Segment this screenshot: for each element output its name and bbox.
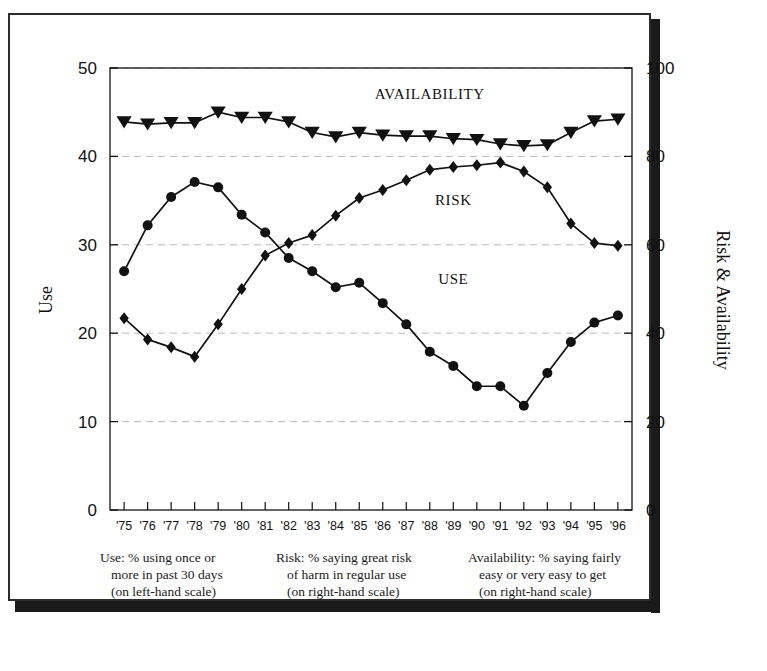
x-axis-tick-label: '90 (469, 519, 485, 533)
right-axis-tick-label: 20 (646, 413, 665, 432)
risk-label: RISK (435, 192, 472, 208)
data-point-marker (613, 240, 622, 252)
availability-caption-line: Availability: % saying fairly (468, 549, 621, 566)
data-point-marker (354, 278, 364, 288)
data-point-marker (166, 192, 176, 202)
data-point-marker (307, 266, 317, 276)
page-canvas: 01020304050 020406080100 '75'76'77'78'79… (0, 0, 767, 671)
left-axis-tick-label: 40 (78, 147, 97, 166)
right-axis-title: Risk & Availability (713, 230, 733, 370)
series-line (124, 163, 618, 357)
availability-label: AVAILABILITY (375, 86, 485, 102)
left-axis-tick-label: 50 (78, 59, 97, 78)
data-point-marker (495, 381, 505, 391)
x-axis-tick-label: '87 (398, 519, 414, 533)
data-point-marker (425, 347, 435, 357)
right-axis-tick-label: 40 (646, 324, 665, 343)
left-axis-tick-label: 0 (88, 501, 97, 520)
x-axis-tick-label: '78 (187, 519, 203, 533)
use-label: USE (438, 271, 468, 287)
x-axis-tick-label: '76 (139, 519, 155, 533)
data-point-marker (401, 319, 411, 329)
risk-caption-line: (on right-hand scale) (276, 583, 412, 600)
data-point-marker (331, 282, 341, 292)
x-axis-tick-label: '92 (516, 519, 532, 533)
data-point-marker (119, 312, 128, 324)
data-point-marker (378, 298, 388, 308)
x-axis: '75'76'77'78'79'80'81'82'83'84'85'86'87'… (116, 502, 626, 533)
x-axis-tick-label: '91 (492, 519, 508, 533)
x-axis-tick-label: '84 (328, 519, 344, 533)
gridlines-group (110, 68, 632, 422)
data-point-marker (496, 157, 505, 169)
chart-figure: 01020304050 020406080100 '75'76'77'78'79… (0, 0, 767, 671)
data-point-marker (563, 127, 578, 139)
risk-caption: Risk: % saying great riskof harm in regu… (276, 549, 412, 600)
x-axis-tick-label: '75 (116, 519, 132, 533)
x-axis-tick-label: '86 (375, 519, 391, 533)
data-point-marker (519, 401, 529, 411)
data-point-marker (213, 182, 223, 192)
data-point-marker (519, 165, 528, 177)
data-point-marker (331, 210, 340, 222)
data-point-marker (308, 229, 317, 241)
data-point-marker (143, 333, 152, 345)
data-point-marker (378, 184, 387, 196)
data-point-marker (472, 159, 481, 171)
data-point-marker (284, 237, 293, 249)
data-point-marker (143, 220, 153, 230)
availability-caption-line: (on right-hand scale) (468, 583, 621, 600)
data-point-marker (566, 337, 576, 347)
data-point-marker (355, 192, 364, 204)
left-axis-tick-label: 30 (78, 236, 97, 255)
data-point-marker (542, 368, 552, 378)
data-point-marker (166, 341, 175, 353)
left-axis-title: Use (36, 286, 56, 314)
data-point-marker (472, 381, 482, 391)
data-point-marker (425, 164, 434, 176)
availability-caption: Availability: % saying fairlyeasy or ver… (468, 549, 621, 600)
data-point-marker (448, 361, 458, 371)
risk-caption-line: Risk: % saying great risk (276, 549, 412, 566)
risk-caption-line: of harm in regular use (276, 566, 412, 583)
availability-caption-line: easy or very easy to get (468, 566, 621, 583)
left-axis-tick-label: 20 (78, 324, 97, 343)
data-point-marker (281, 116, 296, 128)
use-caption-line: (on left-hand scale) (100, 583, 223, 600)
data-point-marker (613, 311, 623, 321)
series-use (119, 177, 623, 411)
right-axis-tick-label: 0 (646, 501, 655, 520)
x-axis-tick-label: '83 (304, 519, 320, 533)
data-point-marker (590, 237, 599, 249)
x-axis-tick-label: '88 (422, 519, 438, 533)
x-axis-tick-label: '89 (445, 519, 461, 533)
data-point-marker (190, 177, 200, 187)
data-point-marker (328, 131, 343, 143)
right-axis-tick-label: 60 (646, 236, 665, 255)
use-caption-line: Use: % using once or (100, 549, 223, 566)
data-point-marker (119, 266, 129, 276)
data-point-marker (589, 318, 599, 328)
x-axis-tick-label: '81 (257, 519, 273, 533)
x-axis-tick-label: '85 (351, 519, 367, 533)
data-point-marker (402, 174, 411, 186)
x-axis-tick-label: '94 (563, 519, 579, 533)
series-risk (119, 157, 622, 363)
left-axis-tick-label: 10 (78, 413, 97, 432)
data-point-marker (284, 253, 294, 263)
right-axis-tick-label: 100 (646, 59, 674, 78)
x-axis-tick-label: '96 (610, 519, 626, 533)
x-axis-tick-label: '82 (281, 519, 297, 533)
x-axis-tick-label: '79 (210, 519, 226, 533)
right-axis-tick-label: 80 (646, 147, 665, 166)
series-layer (117, 107, 626, 411)
use-caption-line: more in past 30 days (100, 566, 223, 583)
x-axis-tick-label: '95 (586, 519, 602, 533)
x-axis-tick-label: '77 (163, 519, 179, 533)
use-caption: Use: % using once ormore in past 30 days… (100, 549, 223, 600)
x-axis-tick-label: '80 (234, 519, 250, 533)
data-point-marker (260, 227, 270, 237)
data-point-marker (449, 161, 458, 173)
data-point-marker (237, 210, 247, 220)
left-axis: 01020304050 (78, 59, 118, 520)
